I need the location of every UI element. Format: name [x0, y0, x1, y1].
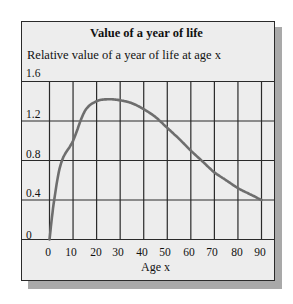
y-tick-1.6: 1.6 [26, 67, 40, 79]
x-tick-70: 70 [200, 246, 224, 258]
y-tick-1.2: 1.2 [26, 108, 40, 120]
value-curve [50, 99, 262, 239]
x-tick-40: 40 [130, 246, 154, 258]
x-tick-80: 80 [225, 246, 249, 258]
x-axis-label: Age x [0, 260, 293, 275]
y-tick-0.4: 0.4 [26, 187, 40, 199]
plot-area [0, 0, 293, 304]
x-tick-0: 0 [36, 246, 60, 258]
x-tick-50: 50 [153, 246, 177, 258]
x-tick-10: 10 [59, 246, 83, 258]
y-tick-0.8: 0.8 [26, 148, 40, 160]
x-tick-20: 20 [84, 246, 108, 258]
x-tick-60: 60 [177, 246, 201, 258]
x-tick-90: 90 [248, 246, 272, 258]
x-tick-30: 30 [106, 246, 130, 258]
grid-lines [22, 82, 275, 240]
y-tick-0: 0 [26, 229, 32, 241]
